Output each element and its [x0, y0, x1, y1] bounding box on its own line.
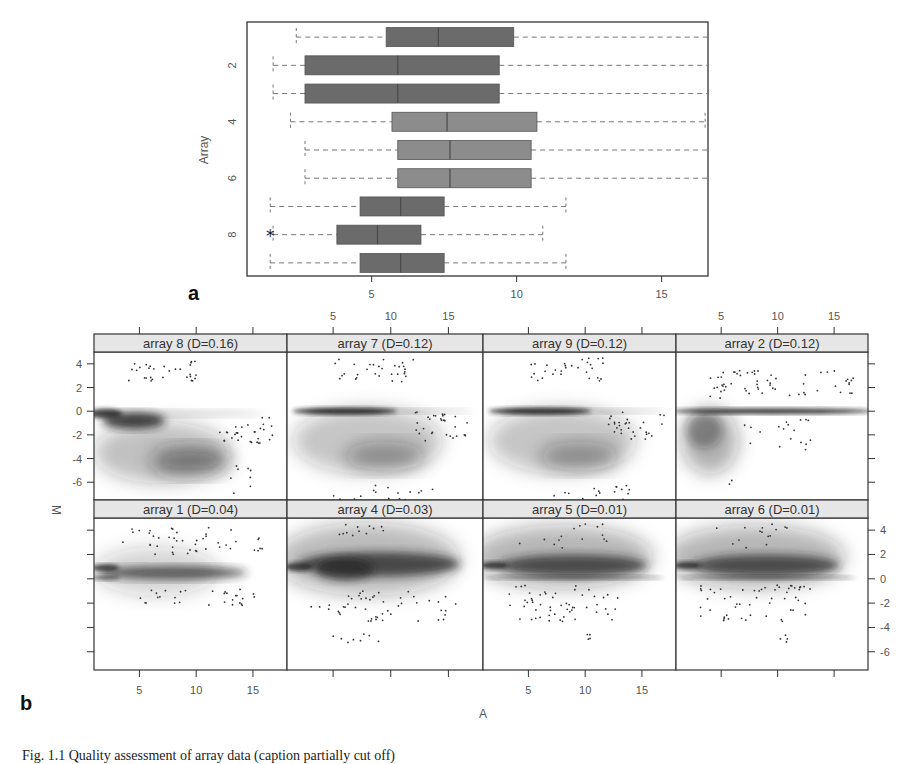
strip-label: array 9 (D=0.12) — [532, 336, 627, 351]
bottom-x-tick-label: 5 — [525, 684, 531, 696]
box-iqr — [305, 56, 499, 75]
y-tick-label: 2 — [226, 62, 238, 68]
right-y-tick-label: -6 — [880, 646, 890, 658]
bottom-x-tick-label: 5 — [136, 684, 142, 696]
y-tick-label: 4 — [226, 119, 238, 125]
right-y-tick-label: 4 — [880, 524, 886, 536]
ma-panel-array-8: array 8 (D=0.16) — [83, 334, 287, 500]
figure-caption: Fig. 1.1 Quality assessment of array dat… — [22, 748, 395, 764]
outlier-star: * — [266, 226, 275, 246]
panel-b-letter: b — [20, 692, 32, 714]
right-y-tick-label: -4 — [880, 621, 890, 633]
strip-label: array 2 (D=0.12) — [724, 336, 819, 351]
box-iqr — [398, 141, 531, 160]
ma-panel-array-4: array 4 (D=0.03) — [275, 500, 483, 670]
ma-panel-array-9: array 9 (D=0.12) — [483, 334, 676, 500]
right-y-tick-label: -2 — [880, 597, 890, 609]
left-y-tick-label: 0 — [76, 405, 82, 417]
plot-area — [94, 518, 287, 670]
bottom-x-tick-label: 10 — [579, 684, 591, 696]
panel-b-xlabel: A — [479, 707, 487, 721]
panel-a-x-axis: 51015 — [369, 276, 668, 300]
box-iqr — [360, 197, 444, 216]
panel-b-ylabel: M — [49, 505, 63, 515]
panel-a-y-axis: 2468 — [226, 62, 238, 237]
strip-label: array 5 (D=0.01) — [532, 502, 627, 517]
panel-a-ylabel: Array — [197, 136, 211, 165]
left-y-tick-label: -6 — [72, 476, 82, 488]
panel-b-trellis: array 8 (D=0.16)array 7 (D=0.12)array 9 … — [20, 310, 890, 721]
strip-label: array 4 (D=0.03) — [337, 502, 432, 517]
left-y-tick-label: 4 — [76, 358, 82, 370]
x-tick-label: 5 — [369, 288, 375, 300]
panel-a-letter: a — [188, 282, 200, 304]
bottom-x-tick-label: 15 — [247, 684, 259, 696]
left-y-tick-label: 2 — [76, 382, 82, 394]
panel-a-boxplot: * 51015 2468 Array a — [188, 22, 708, 304]
ma-panel-array-6: array 6 (D=0.01) — [665, 500, 868, 670]
box-iqr — [360, 253, 444, 272]
right-y-tick-label: 0 — [880, 573, 886, 585]
top-x-tick-label: 5 — [718, 310, 724, 322]
x-tick-label: 10 — [511, 288, 523, 300]
box-iqr — [386, 28, 514, 47]
box-iqr — [337, 225, 421, 244]
y-tick-label: 8 — [226, 232, 238, 238]
bottom-x-tick-label: 10 — [190, 684, 202, 696]
right-y-tick-label: 2 — [880, 548, 886, 560]
panel-b-panels: array 8 (D=0.16)array 7 (D=0.12)array 9 … — [83, 334, 874, 670]
y-tick-label: 6 — [226, 175, 238, 181]
bottom-x-tick-label: 15 — [636, 684, 648, 696]
ma-panel-array-1: array 1 (D=0.04) — [92, 500, 287, 670]
left-y-tick-label: -2 — [72, 429, 82, 441]
ma-panel-array-7: array 7 (D=0.12) — [287, 334, 483, 500]
top-x-tick-label: 10 — [772, 310, 784, 322]
strip-label: array 8 (D=0.16) — [143, 336, 238, 351]
strip-label: array 6 (D=0.01) — [724, 502, 819, 517]
top-x-tick-label: 5 — [330, 310, 336, 322]
x-tick-label: 15 — [655, 288, 667, 300]
ma-panel-array-2: array 2 (D=0.12) — [670, 334, 873, 500]
box-iqr — [392, 112, 537, 131]
top-x-tick-label: 10 — [385, 310, 397, 322]
box-iqr — [305, 84, 499, 103]
top-x-tick-label: 15 — [828, 310, 840, 322]
box-iqr — [398, 169, 531, 188]
left-y-tick-label: -4 — [72, 453, 82, 465]
strip-label: array 1 (D=0.04) — [143, 502, 238, 517]
strip-label: array 7 (D=0.12) — [337, 336, 432, 351]
top-x-tick-label: 15 — [442, 310, 454, 322]
ma-panel-array-5: array 5 (D=0.01) — [472, 500, 676, 670]
